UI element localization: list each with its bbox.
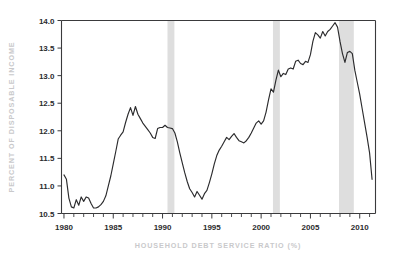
y-tick-label: 13.5: [39, 44, 55, 53]
line-chart: 10.511.011.512.012.513.013.514.0 1980198…: [0, 0, 395, 261]
y-tick-label: 10.5: [39, 210, 55, 219]
y-tick-label: 13.0: [39, 72, 55, 81]
recession-band: [273, 21, 280, 214]
x-tick-label: 2005: [302, 223, 320, 232]
x-tick-label: 1980: [55, 223, 73, 232]
recession-band: [167, 21, 174, 214]
y-tick-label: 11.5: [39, 154, 55, 163]
y-axis-title: PERCENT OF DISPOSABLE INCOME: [7, 42, 16, 193]
y-tick-label: 11.0: [39, 182, 55, 191]
x-tick-label: 2010: [351, 223, 369, 232]
x-axis-title: HOUSEHOLD DEBT SERVICE RATIO (%): [135, 241, 302, 250]
x-tick-label: 1995: [203, 223, 221, 232]
y-tick-label: 12.5: [39, 99, 55, 108]
chart-figure: 10.511.011.512.012.513.013.514.0 1980198…: [0, 0, 395, 261]
y-tick-label: 14.0: [39, 17, 55, 26]
x-tick-label: 1990: [154, 223, 172, 232]
y-tick-label: 12.0: [39, 127, 55, 136]
x-tick-label: 2000: [252, 223, 270, 232]
x-tick-label: 1985: [104, 223, 122, 232]
